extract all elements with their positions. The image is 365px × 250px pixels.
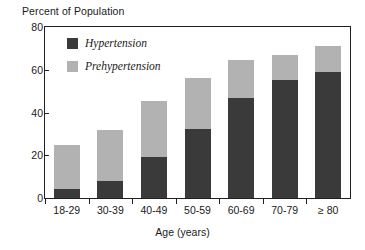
bar-segment-prehypertension [141, 101, 167, 158]
x-tick-mark [263, 199, 264, 204]
legend-label-hypertension: Hypertension [85, 37, 147, 49]
legend-label-prehypertension: Prehypertension [85, 60, 161, 72]
x-tick-mark [306, 199, 307, 204]
x-tick-label: 60-69 [228, 204, 255, 216]
x-tick-mark [89, 199, 90, 204]
x-axis-title: Age (years) [0, 226, 365, 238]
bar-group [228, 60, 254, 198]
x-tick-label: ≥ 80 [318, 204, 338, 216]
chart-legend: Hypertension Prehypertension [67, 33, 197, 79]
bar-segment-hypertension [97, 181, 123, 198]
bar-segment-prehypertension [315, 46, 341, 72]
legend-swatch-prehypertension [67, 61, 78, 72]
x-tick-label: 40-49 [140, 204, 167, 216]
y-tick-label: 40 [13, 107, 43, 118]
bar-segment-prehypertension [97, 130, 123, 181]
bar-segment-hypertension [54, 189, 80, 198]
bar-segment-prehypertension [272, 55, 298, 81]
legend-item-hypertension: Hypertension [67, 33, 197, 53]
bar-group [141, 101, 167, 198]
bar-segment-hypertension [141, 157, 167, 198]
x-tick-label: 30-39 [97, 204, 124, 216]
y-tick-label: 0 [13, 193, 43, 204]
bar-group [185, 78, 211, 198]
bar-group [272, 55, 298, 198]
bar-segment-hypertension [272, 80, 298, 198]
bar-segment-hypertension [315, 72, 341, 198]
bar-segment-prehypertension [185, 78, 211, 128]
x-tick-mark [219, 199, 220, 204]
x-tick-mark [132, 199, 133, 204]
y-axis-title: Percent of Population [22, 5, 125, 17]
legend-item-prehypertension: Prehypertension [67, 56, 197, 76]
x-tick-mark [176, 199, 177, 204]
bar-segment-prehypertension [228, 60, 254, 97]
y-tick-label: 80 [13, 22, 43, 33]
legend-swatch-hypertension [67, 38, 78, 49]
bar-segment-hypertension [228, 98, 254, 198]
bar-group [54, 145, 80, 198]
bar-group [315, 46, 341, 198]
x-tick-label: 18-29 [53, 204, 80, 216]
bar-segment-hypertension [185, 129, 211, 198]
y-tick-label: 60 [13, 65, 43, 76]
x-tick-mark [45, 199, 46, 204]
bar-segment-prehypertension [54, 145, 80, 190]
y-tick-label: 20 [13, 150, 43, 161]
bar-chart: Percent of Population 020406080 18-2930-… [0, 0, 365, 250]
x-tick-label: 70-79 [271, 204, 298, 216]
bar-group [97, 130, 123, 198]
x-tick-label: 50-59 [184, 204, 211, 216]
